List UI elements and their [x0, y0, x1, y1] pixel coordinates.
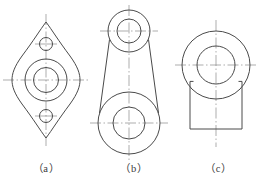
figure-b-caption: （b）	[92, 160, 176, 175]
figure-a-caption: （a）	[0, 160, 92, 175]
drawing-sheet: （a） （b） （c）	[0, 0, 261, 185]
figure-b-web-left-edge	[100, 40, 110, 114]
figure-c	[175, 20, 258, 147]
figure-a	[3, 14, 89, 146]
figure-b-web-right-edge	[149, 40, 159, 114]
figure-b	[90, 5, 168, 160]
caption-row: （a） （b） （c）	[0, 160, 261, 182]
technical-drawing-canvas	[0, 0, 261, 185]
figure-c-caption: （c）	[176, 160, 261, 175]
